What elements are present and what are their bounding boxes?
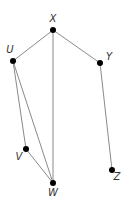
edge-x-u [13, 30, 53, 61]
edge-u-v [13, 61, 26, 149]
edge-u-w [13, 61, 53, 183]
node-w [50, 180, 56, 186]
node-u [10, 58, 16, 64]
node-label-x: X [49, 13, 58, 24]
node-label-z: Z [113, 171, 122, 182]
node-label-u: U [6, 44, 14, 55]
node-y [97, 60, 103, 66]
node-label-w: W [48, 187, 59, 198]
edges-group [13, 30, 112, 183]
edge-y-z [100, 63, 112, 170]
edge-v-w [26, 149, 53, 183]
node-v [23, 146, 29, 152]
node-label-y: Y [106, 51, 113, 62]
node-label-v: V [16, 151, 24, 162]
graph-diagram: XUYVWZ [0, 0, 130, 204]
edge-x-y [53, 30, 100, 63]
node-x [50, 27, 56, 33]
